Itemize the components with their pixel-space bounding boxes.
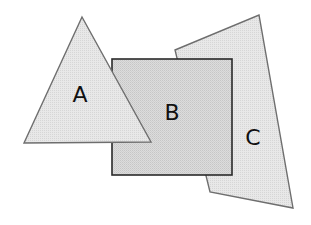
overlapping-shapes-diagram: C B A <box>0 0 311 225</box>
shape-a-label: A <box>72 82 87 107</box>
shape-c-label: C <box>245 125 260 150</box>
shape-b-label: B <box>164 100 179 125</box>
